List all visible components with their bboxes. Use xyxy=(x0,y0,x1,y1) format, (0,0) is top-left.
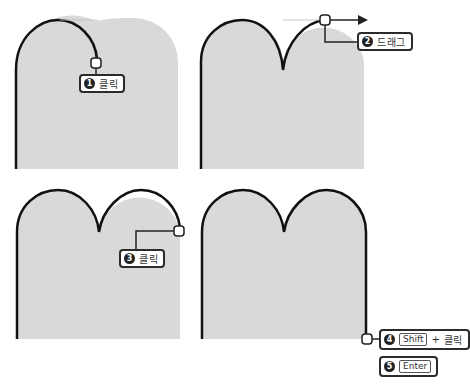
anchor-point-icon xyxy=(174,226,184,236)
drag-arrow-icon xyxy=(358,15,368,25)
step-number-badge: 2 xyxy=(362,36,373,47)
step-action-label: 클릭 xyxy=(99,76,118,91)
step-5-callout: 5 Enter xyxy=(379,356,438,377)
plus-sign: + xyxy=(431,334,439,345)
step-1-callout: 1 클릭 xyxy=(79,74,125,93)
step-4-callout: 4 Shift + 클릭 xyxy=(379,329,470,350)
step-number-badge: 1 xyxy=(84,78,95,89)
step-action-label: 드래그 xyxy=(377,34,406,49)
step-number-badge: 5 xyxy=(384,361,395,372)
anchor-point-icon xyxy=(320,15,330,25)
step-2-callout: 2 드래그 xyxy=(357,32,413,51)
shift-key: Shift xyxy=(399,333,427,346)
panel-4-shape xyxy=(202,191,366,339)
step-number-badge: 4 xyxy=(384,334,395,345)
enter-key: Enter xyxy=(399,360,431,373)
anchor-point-icon xyxy=(91,58,101,68)
panel-2-drag xyxy=(201,15,368,169)
step-3-callout: 3 클릭 xyxy=(119,249,165,268)
step-action-label: 클릭 xyxy=(444,332,463,347)
anchor-point-icon xyxy=(362,334,372,344)
step-number-badge: 3 xyxy=(124,253,135,264)
panel-4-close-path xyxy=(202,190,379,344)
panel-2-shape xyxy=(201,21,364,169)
step-action-label: 클릭 xyxy=(139,251,158,266)
